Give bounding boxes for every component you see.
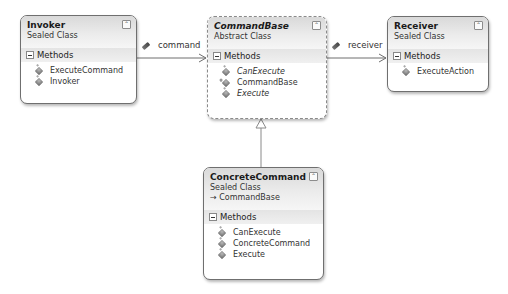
class-receiver[interactable]: Receiver Sealed Class ⌃ Methods ExecuteA…	[387, 16, 489, 92]
collapse-chevron-icon[interactable]: ⌃	[312, 21, 321, 30]
method-name: ExecuteCommand	[50, 65, 123, 76]
public-method-icon	[35, 66, 43, 74]
method-item[interactable]: CanExecute	[204, 227, 323, 238]
method-item[interactable]: Execute	[204, 249, 323, 260]
section-label: Methods	[37, 48, 73, 62]
method-name: CanExecute	[237, 66, 285, 77]
public-method-icon	[402, 67, 410, 75]
command-association-label[interactable]: command	[158, 40, 200, 50]
class-name: Receiver	[394, 21, 482, 32]
section-label: Methods	[404, 49, 440, 63]
base-class-link[interactable]: → CommandBase	[210, 193, 317, 203]
method-item[interactable]: Invoker	[21, 76, 136, 87]
methods-section-header[interactable]: Methods	[204, 210, 323, 224]
collapse-minus-icon[interactable]	[393, 52, 401, 60]
method-item[interactable]: Execute	[208, 88, 326, 99]
section-label: Methods	[224, 49, 260, 63]
collapse-minus-icon[interactable]	[213, 52, 221, 60]
method-name: ExecuteAction	[417, 66, 474, 77]
method-item[interactable]: CommandBase	[208, 77, 326, 88]
inheritance-triangle-icon	[256, 119, 266, 128]
class-header: Invoker Sealed Class ⌃	[21, 16, 136, 48]
abstract-method-icon	[222, 89, 230, 97]
method-item[interactable]: ExecuteCommand	[21, 65, 136, 76]
class-header: CommandBase Abstract Class ⌃	[208, 17, 326, 49]
method-name: CanExecute	[233, 227, 281, 238]
class-command-base[interactable]: CommandBase Abstract Class ⌃ Methods Can…	[207, 16, 327, 119]
method-item[interactable]: ConcreteCommand	[204, 238, 323, 249]
method-name: ConcreteCommand	[233, 238, 310, 249]
method-item[interactable]: ExecuteAction	[388, 66, 488, 77]
class-header: ConcreteCommand Sealed Class → CommandBa…	[204, 168, 323, 210]
class-name: ConcreteCommand	[210, 172, 317, 183]
collapse-chevron-icon[interactable]: ⌃	[309, 172, 318, 181]
override-method-icon	[218, 250, 226, 258]
class-invoker[interactable]: Invoker Sealed Class ⌃ Methods ExecuteCo…	[20, 15, 137, 104]
methods-section-header[interactable]: Methods	[208, 49, 326, 63]
class-name: Invoker	[27, 20, 130, 31]
collapse-minus-icon[interactable]	[26, 51, 34, 59]
methods-section-header[interactable]: Methods	[21, 48, 136, 62]
collapse-minus-icon[interactable]	[209, 213, 217, 221]
method-name: Invoker	[50, 76, 80, 87]
class-kind: Sealed Class	[210, 183, 317, 193]
class-kind: Sealed Class	[394, 32, 482, 42]
method-name: Execute	[237, 88, 269, 99]
collapse-chevron-icon[interactable]: ⌃	[122, 20, 131, 29]
class-concrete-command[interactable]: ConcreteCommand Sealed Class → CommandBa…	[203, 167, 324, 280]
method-item[interactable]: CanExecute	[208, 66, 326, 77]
class-name: CommandBase	[214, 21, 320, 32]
section-label: Methods	[220, 210, 256, 224]
method-name: Execute	[233, 249, 265, 260]
method-name: CommandBase	[237, 77, 298, 88]
methods-section-header[interactable]: Methods	[388, 49, 488, 63]
override-method-icon	[218, 228, 226, 236]
class-kind: Abstract Class	[214, 32, 320, 42]
class-kind: Sealed Class	[27, 31, 130, 41]
public-method-icon	[218, 239, 226, 247]
protected-method-icon	[222, 78, 230, 86]
public-method-icon	[35, 77, 43, 85]
collapse-chevron-icon[interactable]: ⌃	[474, 21, 483, 30]
abstract-method-icon	[222, 67, 230, 75]
receiver-association-label[interactable]: receiver	[348, 40, 383, 50]
class-header: Receiver Sealed Class ⌃	[388, 17, 488, 49]
